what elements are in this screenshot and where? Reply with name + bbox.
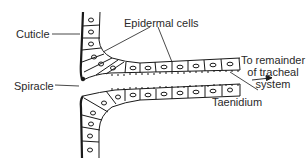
label-remainder-line2: of tracheal xyxy=(238,66,307,78)
epidermal-leader-1 xyxy=(103,27,150,52)
upper-lumen-edge xyxy=(83,70,240,80)
label-remainder-line1: To remainder xyxy=(238,54,307,66)
label-spiracle: Spiracle xyxy=(14,80,54,92)
label-epidermal-cells: Epidermal cells xyxy=(124,17,199,29)
spiracle-tip xyxy=(81,77,85,81)
epidermal-leader-2 xyxy=(158,27,172,62)
label-taenidium: Taenidium xyxy=(212,96,262,108)
spiracle-leader xyxy=(55,85,79,86)
label-remainder: To remainder of tracheal system xyxy=(238,54,307,90)
label-remainder-line3: system xyxy=(238,78,307,90)
label-cuticle: Cuticle xyxy=(16,28,50,40)
upper-cuticle xyxy=(81,12,83,80)
